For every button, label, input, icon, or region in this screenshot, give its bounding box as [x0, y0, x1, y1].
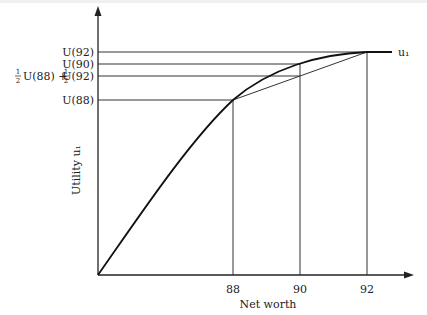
frac1-num: 1	[16, 68, 20, 76]
xtick-92: 92	[360, 283, 374, 296]
xtick-90: 90	[293, 283, 307, 296]
x-axis-label: Net worth	[240, 298, 297, 311]
half-part-b: U(92)	[62, 70, 94, 83]
curve-label: u₁	[398, 46, 410, 59]
ytick-u88: U(88)	[62, 94, 94, 107]
half-part-a: U(88) +	[23, 70, 68, 83]
frac1-den: 2	[16, 77, 20, 85]
utility-curve	[98, 52, 392, 275]
x-axis-arrow-icon	[404, 272, 414, 279]
y-axis-label: Utility u₁	[70, 145, 83, 195]
utility-chart: u₁ U(92) U(90) 1 2 U(88) + 1 2 U(92) U(8…	[0, 0, 427, 315]
y-axis-arrow-icon	[95, 6, 102, 16]
xtick-88: 88	[226, 283, 240, 296]
ytick-half: 1 2 U(88) + 1 2 U(92)	[15, 68, 94, 85]
